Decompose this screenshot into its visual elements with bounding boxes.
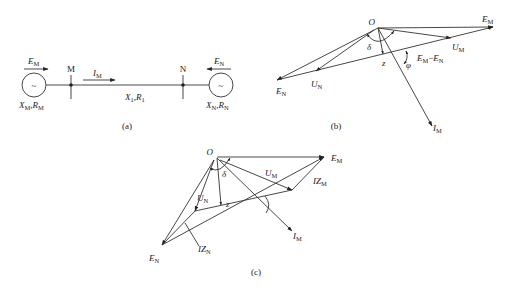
impedance-m-label: XM,RM bbox=[18, 100, 44, 111]
phasor-em bbox=[378, 27, 493, 28]
izm-label: IZM bbox=[312, 176, 327, 187]
source-n-symbol: ~ bbox=[219, 81, 224, 91]
point-z-arrow bbox=[217, 158, 221, 205]
phasor-em-minus-en bbox=[277, 27, 493, 80]
panel-c-phasor: O δ z EM UM IZM UN EN IZN IM (c) bbox=[148, 147, 343, 277]
impedance-n-label: XN,RN bbox=[205, 100, 229, 111]
emf-m-label: EM bbox=[27, 56, 40, 67]
un-label: UN bbox=[311, 79, 323, 90]
origin-o-label: O bbox=[369, 17, 376, 27]
um-label: UM bbox=[265, 168, 278, 179]
em-minus-en-label: EM−EN bbox=[416, 53, 444, 64]
phasor-em-minus-en bbox=[162, 157, 324, 245]
emf-n-label: EN bbox=[213, 56, 225, 67]
current-m-label: IM bbox=[92, 68, 102, 79]
delta-label: δ bbox=[367, 42, 372, 52]
caption-a: (a) bbox=[122, 121, 132, 131]
um-label: UM bbox=[452, 42, 465, 53]
en-label: EN bbox=[275, 86, 287, 97]
panel-b-phasor: O δ z φ EM UM EN UN IM EM−EN (b) bbox=[275, 14, 494, 134]
izn-label: IZN bbox=[197, 244, 211, 255]
un-label: UN bbox=[197, 193, 209, 204]
phasor-un bbox=[316, 30, 374, 71]
phasor-im bbox=[378, 28, 432, 126]
source-m-symbol: ~ bbox=[32, 81, 37, 91]
phasor-im bbox=[217, 158, 292, 231]
phasor-diagram-figure: ~ ~ M N EM EN IM XM,RM X1,R1 XN,RN (a) bbox=[0, 0, 515, 290]
im-label: IM bbox=[292, 231, 302, 242]
en-label: EN bbox=[148, 253, 160, 264]
crossing-angle-arc bbox=[265, 196, 269, 213]
delta-label: δ bbox=[222, 169, 227, 179]
bus-n-node bbox=[181, 83, 185, 87]
panel-a-circuit: ~ ~ M N EM EN IM XM,RM X1,R1 XN,RN (a) bbox=[18, 56, 233, 131]
caption-b: (b) bbox=[331, 121, 342, 131]
bus-m-label: M bbox=[67, 64, 75, 74]
bus-n-label: N bbox=[180, 64, 187, 74]
z-label: z bbox=[225, 199, 230, 209]
im-label: IM bbox=[432, 123, 442, 134]
bus-m-node bbox=[69, 83, 73, 87]
voltage-drop-izn bbox=[162, 211, 195, 245]
phi-label: φ bbox=[406, 60, 411, 70]
phasor-en bbox=[277, 28, 378, 80]
origin-o-label: O bbox=[207, 147, 214, 157]
em-label: EM bbox=[481, 14, 494, 25]
z-label: z bbox=[381, 58, 386, 68]
line-impedance-label: X1,R1 bbox=[124, 92, 145, 103]
em-label: EM bbox=[330, 153, 343, 164]
phasor-um bbox=[220, 160, 292, 190]
caption-c: (c) bbox=[251, 267, 261, 277]
